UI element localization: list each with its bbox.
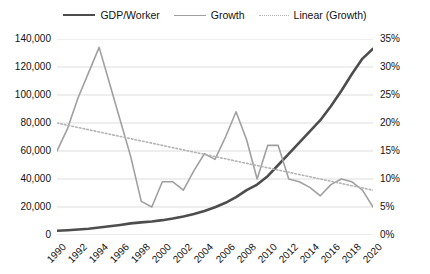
- series-line-gdp-worker: [57, 49, 373, 231]
- y-axis-secondary-tick-label: 0%: [380, 230, 394, 240]
- y-axis-secondary-tick-label: 20%: [380, 118, 400, 128]
- series-line-growth: [57, 47, 373, 207]
- plot-svg: [57, 39, 373, 235]
- y-axis-secondary-tick-label: 10%: [380, 174, 400, 184]
- y-axis-secondary-tick-label: 25%: [380, 90, 400, 100]
- series-line-linear-growth: [57, 123, 373, 190]
- y-axis-secondary-tick-label: 35%: [380, 34, 400, 44]
- y-axis-secondary-tick-label: 30%: [380, 62, 400, 72]
- series-lines: [57, 47, 373, 230]
- plot-area: [57, 39, 373, 235]
- y-axis-secondary-tick-label: 15%: [380, 146, 400, 156]
- x-axis: 1990199219941996199820002002200420062008…: [0, 240, 430, 274]
- chart-container: GDP/Worker Growth Linear (Growth) 020,00…: [0, 0, 430, 274]
- y-axis-secondary-tick-label: 5%: [380, 202, 394, 212]
